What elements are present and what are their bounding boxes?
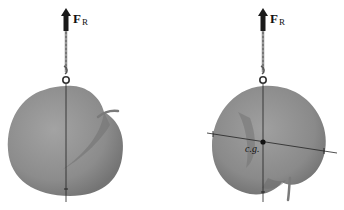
cg-label: c.g.: [245, 144, 259, 154]
right-panel: [207, 8, 337, 202]
apple-left: [8, 86, 123, 196]
force-label-left: FR: [73, 12, 87, 25]
ring-right: [260, 77, 266, 83]
force-subscript: R: [82, 17, 88, 27]
force-arrow-shaft-left: [64, 15, 69, 31]
force-arrow-shaft-right: [261, 15, 266, 31]
force-arrow-head-left: [61, 8, 71, 16]
center-of-gravity-point: [260, 139, 265, 144]
ring-left: [63, 77, 69, 83]
left-panel: [8, 8, 123, 202]
force-subscript: R: [279, 17, 285, 27]
force-symbol: F: [73, 11, 81, 26]
force-symbol: F: [270, 11, 278, 26]
force-label-right: FR: [270, 12, 284, 25]
figure-graphics: [0, 0, 344, 210]
center-of-gravity-figure: FR FR c.g.: [0, 0, 344, 210]
force-arrow-head-right: [258, 8, 268, 16]
apple-right: [212, 86, 326, 195]
